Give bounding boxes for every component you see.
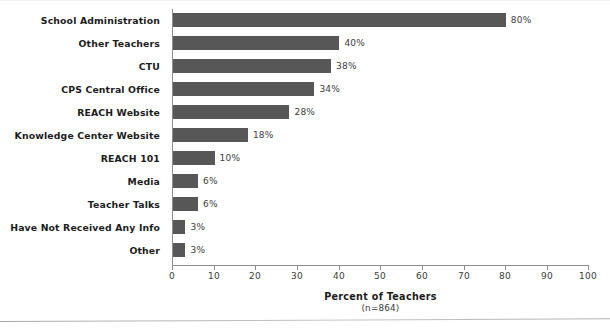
x-axis-tick	[297, 265, 298, 270]
category-label: CTU	[0, 60, 167, 74]
bar-value-label: 6%	[203, 174, 218, 188]
category-label: REACH Website	[0, 106, 167, 120]
x-axis-tick-label: 10	[201, 271, 227, 281]
x-axis-tick	[464, 265, 465, 270]
x-axis-tick	[214, 265, 215, 270]
category-label: Other	[0, 244, 167, 258]
bar-value-label: 6%	[203, 197, 218, 211]
bar	[173, 13, 506, 27]
x-axis-tick	[380, 265, 381, 270]
bar	[173, 220, 185, 234]
x-axis-tick-label: 50	[367, 271, 393, 281]
category-label: Teacher Talks	[0, 198, 167, 212]
bar-value-label: 3%	[190, 243, 205, 257]
x-axis-tick-label: 80	[492, 271, 518, 281]
x-axis-tick	[339, 265, 340, 270]
category-label: Other Teachers	[0, 37, 167, 51]
bar	[173, 128, 248, 142]
plot-area: 0 10 20 30 40 50 60 70 80 90 100 80% 40%…	[172, 0, 610, 334]
bar-value-label: 34%	[319, 82, 340, 96]
category-label: REACH 101	[0, 152, 167, 166]
x-axis-subtitle: (n=864)	[172, 303, 589, 313]
x-axis-tick	[547, 265, 548, 270]
bar-value-label: 3%	[190, 220, 205, 234]
x-axis-tick	[255, 265, 256, 270]
bar	[173, 197, 198, 211]
bar-value-label: 28%	[294, 105, 315, 119]
x-axis-tick-label: 30	[284, 271, 310, 281]
bar-value-label: 40%	[344, 36, 365, 50]
category-label: Knowledge Center Website	[0, 129, 167, 143]
bar	[173, 36, 339, 50]
x-axis-tick	[588, 265, 589, 270]
x-axis-tick-label: 90	[534, 271, 560, 281]
bar-value-label: 38%	[336, 59, 357, 73]
x-axis-tick-label: 60	[409, 271, 435, 281]
x-axis-tick-label: 100	[575, 271, 601, 281]
category-label: School Administration	[0, 14, 167, 28]
category-label: Media	[0, 175, 167, 189]
bar	[173, 151, 215, 165]
x-axis-tick	[422, 265, 423, 270]
bar-value-label: 10%	[220, 151, 241, 165]
x-axis-tick	[172, 265, 173, 270]
bar	[173, 105, 289, 119]
bar-chart: School Administration Other Teachers CTU…	[0, 0, 610, 334]
bar-value-label: 80%	[511, 13, 532, 27]
x-axis-tick-label: 70	[451, 271, 477, 281]
category-label: Have Not Received Any Info	[0, 221, 167, 235]
x-axis-tick-label: 20	[242, 271, 268, 281]
bar	[173, 243, 185, 257]
bar	[173, 174, 198, 188]
x-axis-tick	[505, 265, 506, 270]
bar-value-label: 18%	[253, 128, 274, 142]
x-axis-tick-label: 0	[159, 271, 185, 281]
x-axis-title: Percent of Teachers	[172, 291, 589, 302]
category-label: CPS Central Office	[0, 83, 167, 97]
x-axis-tick-label: 40	[326, 271, 352, 281]
bar	[173, 82, 314, 96]
bar	[173, 59, 331, 73]
